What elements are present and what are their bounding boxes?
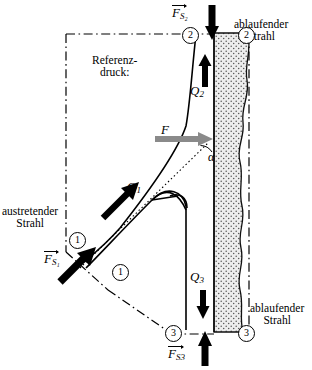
station-marker-2-right: 2 — [238, 27, 255, 44]
station-marker-3-left: 3 — [165, 325, 182, 342]
label-force-F-symbol: F — [161, 122, 169, 137]
force-arrow-FS3 — [198, 331, 212, 366]
label-flow-Q3-subscript: 3 — [199, 275, 204, 285]
station-marker-1-upper: 1 — [69, 232, 86, 249]
label-flow-Q2-subscript: 2 — [199, 89, 204, 99]
label-running-jet-bottom: ablaufender Strahl — [250, 302, 304, 326]
label-force-FS2: FS₂ — [172, 4, 188, 21]
label-reference-pressure-line1: Referenz- — [92, 54, 137, 66]
label-exiting-jet-line1: austretender — [2, 205, 58, 217]
force-arrow-FS1 — [60, 247, 96, 282]
label-flow-Q3-symbol: Q — [190, 269, 199, 284]
label-force-FS2-symbol: F — [172, 5, 180, 20]
jet-band-region — [214, 33, 249, 332]
label-flow-Q2-symbol: Q — [190, 83, 199, 98]
label-flow-Q3: Q3 — [190, 270, 204, 285]
label-exiting-jet-line2: Strahl — [2, 217, 58, 229]
label-exiting-jet: austretender Strahl — [2, 205, 58, 229]
station-marker-2-left: 2 — [182, 27, 199, 44]
label-force-FS3-subscript: S3 — [176, 352, 185, 362]
diagram-canvas: FS₂ ablaufender Strahl Referenz- druck: … — [0, 0, 312, 370]
station-marker-3-right: 3 — [238, 325, 255, 342]
label-force-FS1-symbol: F — [44, 251, 52, 266]
label-flow-Q1: Q1 — [127, 180, 141, 195]
label-reference-pressure: Referenz- druck: — [92, 54, 137, 78]
label-angle-alpha: α — [208, 151, 214, 164]
flow-arrow-Q3 — [197, 290, 210, 319]
label-running-jet-bottom-line1: ablaufender — [250, 302, 304, 314]
station-marker-1-lower: 1 — [112, 264, 129, 281]
flow-arrow-Q2 — [199, 54, 212, 87]
label-force-FS3: FS3 — [168, 345, 185, 362]
label-flow-Q1-symbol: Q — [127, 179, 136, 194]
label-flow-Q1-subscript: 1 — [136, 185, 141, 195]
label-running-jet-bottom-line2: Strahl — [250, 314, 304, 326]
label-force-F: F — [161, 123, 169, 137]
label-force-FS2-subscript: S₂ — [180, 11, 188, 21]
label-reference-pressure-line2: druck: — [92, 66, 137, 78]
label-force-FS1: FS₁ — [44, 250, 60, 267]
label-force-FS1-subscript: S₁ — [52, 257, 60, 267]
label-flow-Q2: Q2 — [190, 84, 204, 99]
label-force-FS3-symbol: F — [168, 346, 176, 361]
